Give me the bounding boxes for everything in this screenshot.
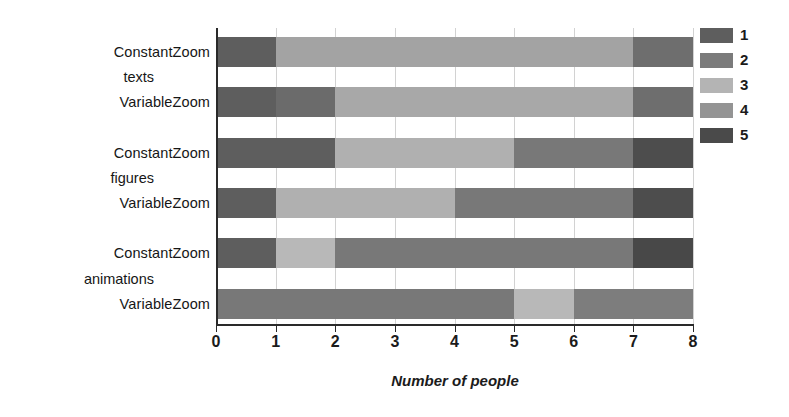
x-tick-label: 2 xyxy=(320,333,350,351)
bar-segment xyxy=(633,37,693,67)
gridline xyxy=(693,28,694,324)
legend-swatch xyxy=(700,103,733,118)
legend-row[interactable]: 4 xyxy=(700,101,780,123)
legend: 12345 xyxy=(700,26,780,151)
bar-segment xyxy=(335,138,514,168)
bar-segment xyxy=(216,188,276,218)
legend-swatch xyxy=(700,28,733,43)
bar-row xyxy=(216,138,693,168)
bar-segment xyxy=(335,238,633,268)
x-tick-label: 4 xyxy=(440,333,470,351)
legend-swatch xyxy=(700,78,733,93)
gridline xyxy=(276,28,277,324)
x-tick-mark xyxy=(574,326,575,332)
x-tick-mark xyxy=(693,326,694,332)
bar-segment xyxy=(514,289,574,319)
x-tick-label: 3 xyxy=(380,333,410,351)
legend-label: 2 xyxy=(740,51,748,68)
x-tick-label: 8 xyxy=(678,333,708,351)
bar-segment xyxy=(216,138,335,168)
x-tick-mark xyxy=(455,326,456,332)
x-tick-label: 1 xyxy=(261,333,291,351)
legend-row[interactable]: 3 xyxy=(700,76,780,98)
legend-label: 3 xyxy=(740,76,748,93)
bar-segment xyxy=(335,87,633,117)
bar-segment xyxy=(276,238,336,268)
legend-label: 4 xyxy=(740,101,748,118)
x-tick-mark xyxy=(395,326,396,332)
x-tick-mark xyxy=(216,326,217,332)
gridline xyxy=(395,28,396,324)
group-label: texts xyxy=(4,69,154,85)
x-axis-ticks: 012345678 xyxy=(216,326,694,356)
bar-segment xyxy=(633,138,693,168)
legend-row[interactable]: 2 xyxy=(700,51,780,73)
bar-row xyxy=(216,289,693,319)
group-label: figures xyxy=(4,170,154,186)
gridline xyxy=(455,28,456,324)
chart-figure: ConstantZoomVariableZoomConstantZoomVari… xyxy=(0,0,789,417)
legend-label: 5 xyxy=(740,126,748,143)
x-tick-mark xyxy=(633,326,634,332)
bar-segment xyxy=(633,238,693,268)
bar-segment xyxy=(276,37,634,67)
x-tick-label: 5 xyxy=(499,333,529,351)
x-tick-label: 0 xyxy=(201,333,231,351)
bar-segment xyxy=(276,188,455,218)
x-axis-title: Number of people xyxy=(216,372,694,389)
bar-segment xyxy=(455,188,634,218)
bar-row xyxy=(216,188,693,218)
group-labels: textsfiguresanimations xyxy=(4,28,210,324)
legend-row[interactable]: 5 xyxy=(700,126,780,148)
gridline xyxy=(514,28,515,324)
y-axis-spine xyxy=(216,28,218,326)
bar-segment xyxy=(633,188,693,218)
x-tick-label: 7 xyxy=(618,333,648,351)
legend-label: 1 xyxy=(740,26,748,43)
bar-segment xyxy=(216,289,514,319)
x-tick-label: 6 xyxy=(559,333,589,351)
x-tick-mark xyxy=(276,326,277,332)
x-tick-mark xyxy=(335,326,336,332)
bar-segment xyxy=(514,138,633,168)
bar-segment xyxy=(633,87,693,117)
bar-row xyxy=(216,238,693,268)
bar-segment xyxy=(574,289,693,319)
legend-swatch xyxy=(700,128,733,143)
bar-segment xyxy=(216,238,276,268)
bar-row xyxy=(216,37,693,67)
x-tick-mark xyxy=(514,326,515,332)
bar-segment xyxy=(216,37,276,67)
gridline xyxy=(633,28,634,324)
bar-segment xyxy=(276,87,336,117)
legend-row[interactable]: 1 xyxy=(700,26,780,48)
gridline xyxy=(335,28,336,324)
gridline xyxy=(574,28,575,324)
legend-swatch xyxy=(700,53,733,68)
plot-area xyxy=(216,28,693,324)
bar-segment xyxy=(216,87,276,117)
bar-row xyxy=(216,87,693,117)
group-label: animations xyxy=(4,271,154,287)
